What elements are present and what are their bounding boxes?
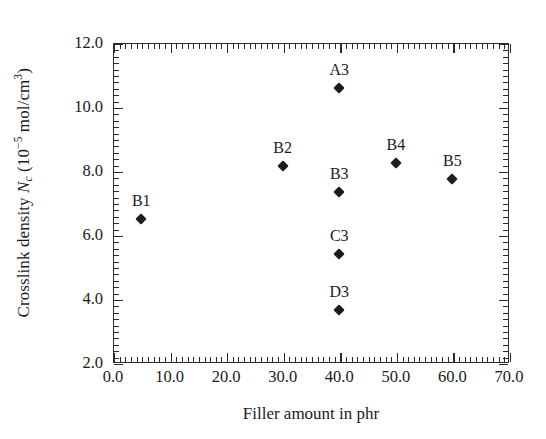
x-axis-minor-tick [374,357,375,362]
y-axis-minor-tick [114,351,119,352]
y-axis-minor-tick [114,274,119,275]
y-axis-minor-tick [114,191,119,192]
x-axis-major-tick [340,353,341,362]
x-axis-minor-tick [244,357,245,362]
y-axis-symbol: N [14,181,33,192]
y-axis-right-minor-tick [503,76,508,77]
y-axis-minor-tick [114,159,119,160]
x-axis-top-minor-tick [408,44,409,49]
x-axis-minor-tick [499,357,500,362]
x-axis-minor-tick [176,357,177,362]
x-axis-top-major-tick [284,44,285,53]
plot-area [113,43,509,363]
x-axis-top-minor-tick [154,44,155,49]
y-axis-right-major-tick [499,300,508,301]
y-axis-minor-tick [114,249,119,250]
y-axis-minor-tick [114,166,119,167]
x-axis-top-minor-tick [233,44,234,49]
y-axis-right-minor-tick [503,50,508,51]
x-axis-top-minor-tick [267,44,268,49]
y-axis-minor-tick [114,306,119,307]
y-axis-right-minor-tick [503,294,508,295]
y-axis-minor-tick [114,89,119,90]
x-axis-minor-tick [323,357,324,362]
x-axis-top-minor-tick [374,44,375,49]
data-point-label: B4 [387,136,406,154]
x-axis-minor-tick [487,357,488,362]
y-axis-right-minor-tick [503,166,508,167]
y-axis-unit-open: (10 [14,149,33,176]
data-point-label: B3 [330,165,349,183]
x-axis-minor-tick [369,357,370,362]
x-axis-top-minor-tick [346,44,347,49]
y-axis-right-minor-tick [503,134,508,135]
x-axis-top-minor-tick [386,44,387,49]
x-axis-minor-tick [431,357,432,362]
x-axis-top-minor-tick [323,44,324,49]
chart-figure: Crosslink density Nc (10−5 mol/cm3) Fill… [0,0,546,439]
x-axis-minor-tick [306,357,307,362]
y-axis-minor-tick [114,198,119,199]
x-axis-major-tick [397,353,398,362]
x-axis-minor-tick [482,357,483,362]
y-axis-title-container: Crosslink density Nc (10−5 mol/cm3) [0,0,46,400]
y-axis-unit-tail: ) [14,68,33,74]
y-axis-minor-tick [114,127,119,128]
x-axis-top-minor-tick [250,44,251,49]
y-axis-tick-label: 8.0 [33,161,103,181]
x-axis-minor-tick [403,357,404,362]
x-axis-minor-tick [142,357,143,362]
x-axis-top-minor-tick [335,44,336,49]
y-axis-minor-tick [114,95,119,96]
x-axis-minor-tick [425,357,426,362]
y-axis-minor-tick [114,63,119,64]
x-axis-top-minor-tick [431,44,432,49]
x-axis-minor-tick [210,357,211,362]
y-axis-right-minor-tick [503,230,508,231]
y-axis-right-major-tick [499,172,508,173]
x-axis-minor-tick [465,357,466,362]
x-axis-top-minor-tick [301,44,302,49]
x-axis-minor-tick [199,357,200,362]
x-axis-minor-tick [193,357,194,362]
y-axis-right-minor-tick [503,178,508,179]
x-axis-top-minor-tick [306,44,307,49]
x-axis-minor-tick [386,357,387,362]
x-axis-top-minor-tick [419,44,420,49]
x-axis-top-minor-tick [278,44,279,49]
y-axis-right-minor-tick [503,332,508,333]
y-axis-minor-tick [114,57,119,58]
y-axis-right-major-tick [499,364,508,365]
x-axis-minor-tick [459,357,460,362]
x-axis-top-major-tick [227,44,228,53]
y-axis-right-major-tick [499,108,508,109]
x-axis-minor-tick [250,357,251,362]
y-axis-right-minor-tick [503,358,508,359]
x-axis-major-tick [284,353,285,362]
x-axis-title: Filler amount in phr [113,404,509,424]
y-axis-right-minor-tick [503,82,508,83]
y-axis-minor-tick [114,185,119,186]
x-axis-minor-tick [216,357,217,362]
x-axis-top-minor-tick [272,44,273,49]
x-axis-minor-tick [205,357,206,362]
x-axis-top-major-tick [397,44,398,53]
y-axis-minor-tick [114,281,119,282]
x-axis-minor-tick [137,357,138,362]
x-axis-major-tick [171,353,172,362]
x-axis-top-minor-tick [476,44,477,49]
y-axis-minor-tick [114,268,119,269]
y-axis-right-minor-tick [503,223,508,224]
x-axis-top-minor-tick [142,44,143,49]
x-axis-top-minor-tick [391,44,392,49]
y-axis-minor-tick [114,313,119,314]
y-axis-minor-tick [114,326,119,327]
y-axis-minor-tick [114,262,119,263]
y-axis-tick-label: 4.0 [33,289,103,309]
y-axis-right-minor-tick [503,281,508,282]
y-axis-right-minor-tick [503,274,508,275]
x-axis-major-tick [227,353,228,362]
y-axis-right-minor-tick [503,262,508,263]
y-axis-right-minor-tick [503,287,508,288]
x-axis-top-minor-tick [436,44,437,49]
